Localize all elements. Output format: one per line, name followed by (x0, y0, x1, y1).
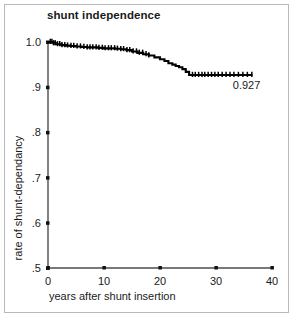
figure-container: shunt independence .5.6.7.8.91.001020304… (0, 0, 293, 317)
x-axis-label: years after shunt insertion (49, 290, 176, 302)
y-tick-label: .9 (32, 81, 41, 93)
survival-curve (48, 42, 252, 75)
y-tick-label: .8 (32, 126, 41, 138)
x-tick-label: 40 (266, 275, 278, 287)
x-tick-label: 30 (210, 275, 222, 287)
y-tick-label: 1.0 (26, 36, 41, 48)
y-tick-label: .5 (32, 262, 41, 274)
y-tick-label: .7 (32, 172, 41, 184)
y-axis-label: rate of shunt-dependancy (12, 118, 24, 278)
x-tick-label: 10 (98, 275, 110, 287)
x-tick-label: 20 (154, 275, 166, 287)
y-tick-label: .6 (32, 217, 41, 229)
kaplan-meier-plot: .5.6.7.8.91.00102030400.927 (0, 0, 293, 317)
endpoint-value-label: 0.927 (233, 79, 261, 91)
x-tick-label: 0 (45, 275, 51, 287)
